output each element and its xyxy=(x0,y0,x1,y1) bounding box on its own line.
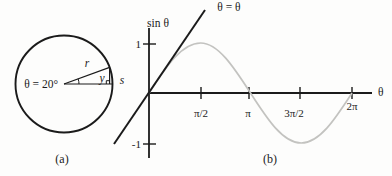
x-tick-label-pi-over-2: π/2 xyxy=(194,107,208,119)
y-tick-label-neg-1: -1 xyxy=(132,138,141,150)
arc-length-label: s xyxy=(120,74,125,86)
identity-line-label: θ = θ xyxy=(217,1,241,13)
panel-a: θ = 20° r y s (a) xyxy=(16,36,125,167)
vertical-side-label: y xyxy=(98,72,105,85)
y-axis-title: sin θ xyxy=(147,17,169,29)
figure-svg: θ = 20° r y s (a) sin θ θ xyxy=(0,0,392,176)
y-tick-label-1: 1 xyxy=(136,38,142,50)
panel-b-caption: (b) xyxy=(263,152,277,166)
x-axis-title: θ xyxy=(378,86,384,98)
panel-a-caption: (a) xyxy=(55,152,68,166)
x-tick-label-pi: π xyxy=(245,107,251,119)
angle-value-label: θ = 20° xyxy=(24,78,58,90)
angle-arc xyxy=(78,79,79,84)
textbook-figure: θ = 20° r y s (a) sin θ θ xyxy=(0,0,392,176)
identity-line xyxy=(114,10,205,144)
panel-b: sin θ θ θ = θ 1 -1 π/2 π 3π/2 2π (b) xyxy=(114,1,384,166)
x-tick-label-2pi: 2π xyxy=(346,100,358,112)
radius-label: r xyxy=(85,57,90,69)
x-tick-label-3pi-over-2: 3π/2 xyxy=(284,107,304,119)
